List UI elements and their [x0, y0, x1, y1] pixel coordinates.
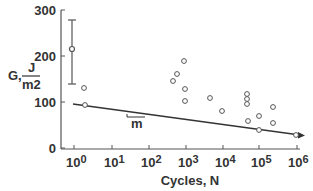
y-tick-label: 300 — [34, 3, 56, 18]
svg-text:G,: G, — [8, 68, 22, 83]
y-tick-label: 0 — [49, 141, 56, 156]
x-tick-labels: 100 101 102 103 104 105 106 — [66, 153, 309, 170]
x-axis-title: Cycles, N — [161, 173, 220, 188]
y-tick-label: 200 — [34, 49, 56, 64]
data-points — [82, 59, 299, 138]
fatigue-chart: 300 200 100 0 G, J m2 100 101 102 103 10… — [0, 0, 313, 191]
svg-text:m2: m2 — [22, 77, 41, 92]
svg-text:100: 100 — [66, 153, 87, 170]
svg-text:104: 104 — [215, 153, 236, 170]
svg-text:J: J — [28, 60, 35, 75]
svg-text:103: 103 — [178, 153, 199, 170]
svg-text:106: 106 — [288, 153, 309, 170]
fit-line — [73, 104, 305, 139]
y-tick-label: 100 — [34, 95, 56, 110]
y-axis-title: G, J m2 — [8, 60, 41, 92]
svg-text:101: 101 — [104, 153, 125, 170]
slope-label: m — [131, 116, 143, 131]
svg-text:102: 102 — [141, 153, 162, 170]
static-error-bar — [68, 20, 76, 84]
svg-text:105: 105 — [251, 153, 272, 170]
